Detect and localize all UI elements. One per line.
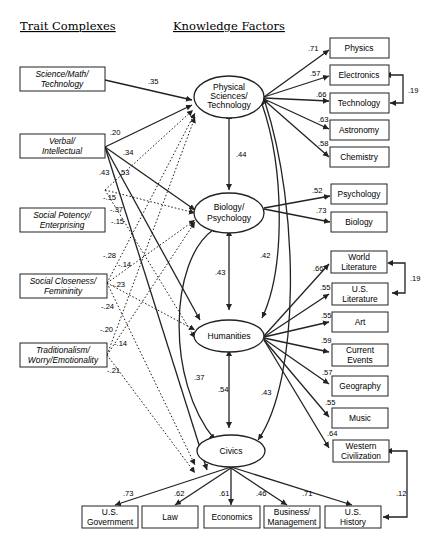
indicator-us-literature: U.S.Literature (332, 283, 388, 305)
svg-text:-.15: -.15 (103, 193, 116, 202)
svg-text:.43: .43 (261, 388, 272, 397)
svg-text:U.S.: U.S. (352, 284, 368, 294)
svg-text:.57: .57 (310, 69, 321, 78)
header-trait-complexes: Trait Complexes (20, 19, 116, 33)
svg-text:-.15: -.15 (111, 217, 124, 226)
indicator-astronomy: Astronomy (330, 120, 389, 140)
indicator-music: Music (332, 408, 388, 428)
svg-text:.61: .61 (219, 489, 230, 498)
svg-text:Music: Music (349, 413, 371, 423)
svg-text:-.20: -.20 (100, 325, 113, 334)
svg-text:-.14: -.14 (118, 260, 131, 269)
svg-text:Chemistry: Chemistry (340, 152, 379, 162)
svg-text:.34: .34 (123, 148, 134, 157)
header-knowledge-factors: Knowledge Factors (173, 19, 285, 33)
svg-text:.53: .53 (119, 168, 130, 177)
indicator-economics: Economics (204, 506, 260, 528)
svg-text:Government: Government (87, 517, 134, 527)
svg-text:Physics: Physics (345, 43, 374, 53)
svg-text:-.24: -.24 (101, 302, 114, 311)
svg-text:.55: .55 (325, 398, 336, 407)
factor-correlations (179, 102, 290, 440)
svg-text:.54: .54 (218, 385, 229, 394)
indicator-us-government: U.S.Government (82, 506, 138, 528)
svg-text:Psychology: Psychology (338, 189, 382, 199)
svg-text:.43: .43 (215, 268, 226, 277)
trait-social-potency: Social Potency/ Enterprising (20, 208, 105, 232)
svg-text:.19: .19 (408, 86, 419, 95)
svg-text:.44: .44 (236, 150, 247, 159)
trait-social-closeness: Social Closeness/ Femininity (20, 274, 107, 298)
indicator-biology: Biology (331, 212, 387, 232)
svg-text:-.14: -.14 (114, 339, 127, 348)
svg-text:U.S.: U.S. (345, 507, 361, 517)
svg-text:Law: Law (162, 512, 178, 522)
svg-text:.58: .58 (318, 139, 329, 148)
svg-text:Worry/Emotionality: Worry/Emotionality (28, 355, 99, 365)
svg-text:.55: .55 (320, 283, 331, 292)
svg-text:Femininity: Femininity (44, 286, 83, 296)
svg-text:History: History (340, 517, 367, 527)
indicator-business-management: Business/Management (264, 506, 320, 528)
svg-text:.55: .55 (321, 311, 332, 320)
svg-text:Psychology: Psychology (207, 213, 252, 223)
svg-text:.71: .71 (308, 44, 319, 53)
indicator-world-literature: WorldLiterature (331, 251, 387, 273)
svg-text:Enterprising: Enterprising (40, 220, 85, 230)
indicator-us-history: U.S.History (325, 506, 381, 528)
factor-biology-psychology: Biology/ Psychology (194, 193, 264, 233)
svg-text:.46: .46 (256, 489, 267, 498)
structural-equation-diagram: Trait Complexes Knowledge Factors (0, 0, 430, 545)
svg-text:.52: .52 (312, 186, 323, 195)
svg-text:.62: .62 (174, 489, 185, 498)
indicator-technology: Technology (330, 93, 389, 113)
svg-text:.20: .20 (110, 128, 121, 137)
svg-text:.57: .57 (322, 368, 333, 377)
svg-text:Current: Current (346, 345, 375, 355)
svg-text:.73: .73 (123, 489, 134, 498)
svg-text:Technology: Technology (338, 98, 381, 108)
svg-text:Geography: Geography (339, 381, 381, 391)
trait-verbal: Verbal/ Intellectual (20, 134, 105, 158)
svg-text:Western: Western (345, 441, 376, 451)
svg-text:-.21: -.21 (107, 366, 120, 375)
factor-civics: Civics (197, 435, 265, 467)
indicator-geography: Geography (332, 376, 388, 396)
trait-traditionalism: Traditionalism/ Worry/Emotionality (20, 343, 107, 367)
svg-text:World: World (348, 252, 370, 262)
svg-text:Intellectual: Intellectual (42, 146, 83, 156)
indicator-western-civilization: WesternCivilization (333, 440, 389, 462)
svg-text:Astronomy: Astronomy (339, 125, 380, 135)
svg-text:.37: .37 (194, 373, 205, 382)
indicator-law: Law (142, 506, 198, 528)
indicator-art: Art (332, 312, 388, 332)
factor-humanities: Humanities (194, 320, 264, 352)
svg-text:Art: Art (355, 317, 366, 327)
svg-text:Traditionalism/: Traditionalism/ (36, 345, 92, 355)
trait-science-math: Science/Math/ Technology (20, 67, 105, 91)
svg-text:Biology: Biology (345, 217, 373, 227)
svg-text:Economics: Economics (212, 512, 253, 522)
svg-text:U.S.: U.S. (102, 507, 118, 517)
svg-text:Technology: Technology (207, 100, 251, 110)
svg-text:.66: .66 (316, 90, 327, 99)
svg-text:.43: .43 (99, 168, 110, 177)
svg-text:.66: .66 (313, 264, 324, 273)
svg-text:.73: .73 (316, 206, 327, 215)
positive-paths (105, 80, 207, 470)
indicator-physics: Physics (330, 38, 389, 58)
svg-text:Civics: Civics (220, 446, 243, 456)
svg-text:.63: .63 (318, 115, 329, 124)
svg-text:Social Potency/: Social Potency/ (33, 210, 92, 220)
svg-text:Literature: Literature (341, 262, 377, 272)
svg-text:Verbal/: Verbal/ (49, 136, 77, 146)
svg-text:Events: Events (347, 355, 373, 365)
svg-text:-.37: -.37 (110, 205, 123, 214)
svg-text:.12: .12 (396, 489, 407, 498)
svg-text:Social Closeness/: Social Closeness/ (30, 276, 98, 286)
svg-text:.59: .59 (321, 336, 332, 345)
svg-text:.19: .19 (410, 274, 421, 283)
svg-text:Biology/: Biology/ (214, 202, 245, 212)
svg-text:Literature: Literature (342, 294, 378, 304)
svg-text:Humanities: Humanities (208, 331, 251, 341)
